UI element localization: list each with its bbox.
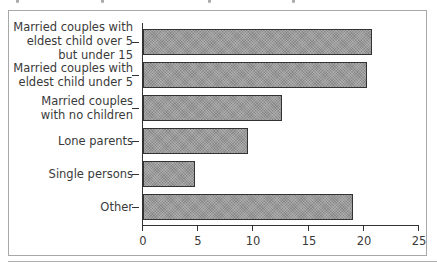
bar — [143, 62, 367, 88]
category-label: Married couples with no children — [41, 94, 133, 122]
category-label: Other — [100, 200, 133, 214]
category-label: Married couples with eldest child over 5… — [13, 20, 133, 62]
x-tick-label: 0 — [139, 234, 146, 248]
x-tick — [197, 225, 198, 231]
bar — [143, 194, 353, 220]
x-tick-label: 10 — [246, 234, 261, 248]
bar — [143, 128, 248, 154]
y-tick — [132, 75, 139, 76]
x-axis — [142, 225, 419, 226]
x-tick — [142, 225, 143, 231]
x-tick — [363, 225, 364, 231]
y-tick — [132, 108, 139, 109]
bar — [143, 161, 195, 187]
x-tick — [418, 225, 419, 231]
y-tick — [132, 207, 139, 208]
y-tick — [132, 141, 139, 142]
bar — [143, 29, 372, 55]
y-tick — [132, 42, 139, 43]
x-tick-label: 20 — [357, 234, 372, 248]
x-tick-label: 25 — [412, 234, 427, 248]
category-label: Lone parents — [58, 134, 133, 148]
x-tick-label: 5 — [194, 234, 201, 248]
x-tick — [308, 225, 309, 231]
x-tick-label: 15 — [302, 234, 317, 248]
category-label: Single persons — [49, 167, 133, 181]
bar-chart: Married couples with eldest child over 5… — [0, 0, 437, 264]
y-tick — [132, 174, 139, 175]
bar — [143, 95, 282, 121]
x-tick — [252, 225, 253, 231]
category-label: Married couples with eldest child under … — [13, 61, 133, 89]
